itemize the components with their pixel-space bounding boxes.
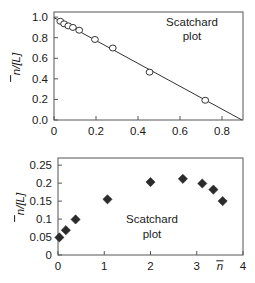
- scatchard-top-plot: 0.00.20.40.60.81.000.20.40.60.8n/[L] Sca…: [0, 0, 255, 142]
- bottom-y-ticklabel: 0.1: [36, 213, 52, 225]
- top-x-ticklabel: 0: [51, 125, 57, 137]
- top-fit-line: [54, 18, 242, 120]
- bottom-x-ticklabel: 0: [55, 260, 61, 272]
- bottom-x-axis-title-glyph: n: [217, 260, 223, 272]
- bottom-data-point: [198, 179, 207, 188]
- bottom-y-ticklabel: 0.25: [30, 159, 52, 171]
- bottom-data-point: [61, 226, 70, 235]
- bottom-data-point: [178, 174, 187, 183]
- top-y-axis-title-text: n/[L]: [10, 52, 22, 75]
- bottom-x-axis-title: n: [216, 260, 223, 272]
- bottom-annotation-line1: Scatchard: [126, 213, 178, 225]
- bottom-y-ticklabel: 0.2: [36, 177, 52, 189]
- top-y-ticklabel: 0.6: [32, 52, 48, 64]
- bottom-data-point: [71, 215, 80, 224]
- scatchard-figure: 0.00.20.40.60.81.000.20.40.60.8n/[L] Sca…: [0, 0, 255, 283]
- top-annotation-line2: plot: [183, 30, 202, 42]
- top-x-ticklabel: 0.8: [214, 125, 230, 137]
- bottom-annotation-line2: plot: [143, 228, 162, 240]
- top-x-ticklabel: 0.6: [172, 125, 188, 137]
- bottom-data-point: [103, 195, 112, 204]
- bottom-data-point: [218, 197, 227, 206]
- top-data-point: [109, 45, 116, 51]
- bottom-data-point: [146, 177, 155, 186]
- top-x-ticklabel: 0.2: [88, 125, 104, 137]
- bottom-y-ticklabel: 0.15: [30, 195, 52, 207]
- chart-panel-bottom: 00.050.10.150.20.2501234n/[L]n Scatchard…: [0, 142, 255, 283]
- bottom-y-ticklabel: 0.05: [30, 231, 52, 243]
- scatchard-bottom-plot: 00.050.10.150.20.2501234n/[L]n Scatchard…: [0, 142, 255, 283]
- top-y-ticklabel: 0.4: [32, 73, 49, 85]
- top-annotation-line1: Scatchard: [166, 16, 218, 28]
- top-data-point: [70, 24, 77, 30]
- bottom-y-axis-title-text: n/[L]: [14, 192, 26, 215]
- top-data-point: [202, 97, 209, 103]
- top-data-point: [76, 27, 83, 33]
- bottom-x-ticklabel: 4: [240, 260, 247, 272]
- bottom-y-axis-title: n/[L]: [14, 192, 26, 222]
- top-data-point: [146, 69, 153, 75]
- bottom-x-ticklabel: 1: [101, 260, 107, 272]
- top-x-ticklabel: 0.4: [130, 125, 147, 137]
- top-y-ticklabel: 0.2: [32, 93, 48, 105]
- chart-panel-top: 0.00.20.40.60.81.000.20.40.60.8n/[L] Sca…: [0, 0, 255, 142]
- bottom-plot-frame: [58, 158, 243, 255]
- top-y-ticklabel: 1.0: [32, 11, 48, 23]
- top-y-ticklabel: 0.0: [32, 114, 48, 126]
- bottom-x-ticklabel: 3: [194, 260, 200, 272]
- bottom-data-point: [209, 185, 218, 194]
- top-y-axis-title: n/[L]: [10, 52, 22, 82]
- top-y-ticklabel: 0.8: [32, 32, 48, 44]
- top-data-point: [92, 36, 99, 42]
- bottom-x-ticklabel: 2: [147, 260, 153, 272]
- bottom-y-ticklabel: 0: [46, 249, 52, 261]
- bottom-data-point: [55, 233, 64, 242]
